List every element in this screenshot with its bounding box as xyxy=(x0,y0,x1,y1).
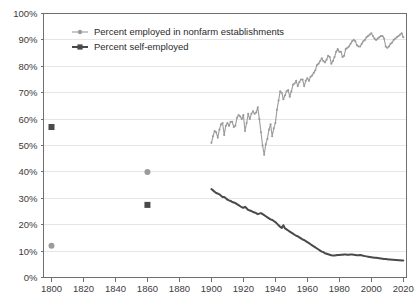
x-axis-tick-label: 1820 xyxy=(73,283,94,294)
data-point-marker xyxy=(297,85,299,87)
data-point-marker xyxy=(270,123,272,125)
data-point-marker xyxy=(242,114,244,116)
data-point-marker xyxy=(255,111,257,113)
y-axis-tick-label: 90% xyxy=(18,34,38,45)
data-point-marker xyxy=(266,138,268,140)
data-point-marker xyxy=(321,57,323,59)
x-axis: 1800182018401860188019001920194019601980… xyxy=(41,14,414,295)
data-point-marker xyxy=(249,118,251,120)
data-point-marker xyxy=(388,45,390,47)
data-point-marker xyxy=(218,129,220,131)
data-point-marker xyxy=(391,41,393,43)
data-point-marker xyxy=(278,100,280,102)
data-point-marker xyxy=(402,36,404,38)
x-axis-tick-label: 1940 xyxy=(265,283,286,294)
data-point-marker xyxy=(330,63,332,65)
data-point-marker xyxy=(329,56,331,58)
data-point-marker xyxy=(354,40,356,42)
data-point-marker xyxy=(314,69,316,71)
isolated-point-nonfarm-1800 xyxy=(48,243,54,249)
data-point-marker xyxy=(340,51,342,53)
y-axis: 0%10%20%30%40%50%60%70%80%90%100% xyxy=(13,8,43,283)
y-axis-tick-label: 70% xyxy=(18,87,38,98)
data-point-marker xyxy=(222,122,224,124)
data-point-marker xyxy=(226,122,228,124)
data-point-marker xyxy=(273,127,275,129)
data-point-marker xyxy=(319,60,321,62)
data-point-marker xyxy=(250,113,252,115)
data-point-marker xyxy=(274,122,276,124)
y-axis-tick-label: 40% xyxy=(18,166,38,177)
y-axis-tick-label: 60% xyxy=(18,114,38,125)
x-axis-tick-label: 1900 xyxy=(201,283,222,294)
x-axis-tick-label: 1800 xyxy=(41,283,62,294)
series-line-nonfarm xyxy=(211,33,403,154)
data-point-marker xyxy=(332,60,334,62)
data-point-marker xyxy=(343,55,345,57)
data-point-marker xyxy=(313,72,315,74)
legend-label-1: Percent self-employed xyxy=(94,41,189,52)
x-axis-tick-label: 2020 xyxy=(393,283,414,294)
data-point-marker xyxy=(252,110,254,112)
data-point-marker xyxy=(257,106,259,108)
data-point-marker xyxy=(281,92,283,94)
data-point-marker xyxy=(305,80,307,82)
data-point-marker xyxy=(265,143,267,145)
x-axis-tick-label: 1860 xyxy=(137,283,158,294)
data-point-marker xyxy=(333,56,335,58)
data-point-marker xyxy=(217,137,219,139)
data-point-marker xyxy=(241,118,243,120)
data-point-marker xyxy=(337,48,339,50)
data-point-marker xyxy=(348,45,350,47)
y-axis-tick-label: 100% xyxy=(13,8,38,19)
data-point-marker xyxy=(234,125,236,127)
x-axis-tick-label: 1960 xyxy=(297,283,318,294)
x-axis-tick-label: 1920 xyxy=(233,283,254,294)
chart-container: 0%10%20%30%40%50%60%70%80%90%100% 180018… xyxy=(0,0,419,306)
data-point-marker xyxy=(210,142,212,144)
data-point-marker xyxy=(372,35,374,37)
data-point-marker xyxy=(311,74,313,76)
y-axis-tick-label: 0% xyxy=(24,272,38,283)
data-point-marker xyxy=(302,78,304,80)
data-point-marker xyxy=(298,81,300,83)
data-point-marker xyxy=(306,77,308,79)
data-point-marker xyxy=(236,117,238,119)
data-point-marker xyxy=(231,121,233,123)
legend-marker-1 xyxy=(77,44,82,49)
x-axis-tick-label: 1840 xyxy=(105,283,126,294)
x-axis-tick-label: 1980 xyxy=(329,283,350,294)
data-point-marker xyxy=(246,122,248,124)
data-point-marker xyxy=(263,154,265,156)
data-point-marker xyxy=(308,80,310,82)
data-point-marker xyxy=(271,135,273,137)
data-point-marker xyxy=(215,131,217,133)
data-point-marker xyxy=(268,129,270,131)
data-point-marker xyxy=(401,32,403,34)
series-nonfarm xyxy=(210,32,404,156)
data-point-marker xyxy=(287,89,289,91)
data-point-marker xyxy=(325,59,327,61)
y-axis-tick-label: 10% xyxy=(18,246,38,257)
isolated-point-self_employed-1860 xyxy=(144,202,150,208)
data-point-marker xyxy=(289,96,291,98)
legend-label-0: Percent employed in nonfarm establishmen… xyxy=(94,26,284,37)
data-point-marker xyxy=(276,109,278,111)
isolated-point-self_employed-1800 xyxy=(48,124,54,130)
data-point-marker xyxy=(324,61,326,63)
line-chart: 0%10%20%30%40%50%60%70%80%90%100% 180018… xyxy=(0,0,419,306)
data-point-marker xyxy=(361,43,363,45)
data-point-marker xyxy=(247,113,249,115)
data-point-marker xyxy=(225,125,227,127)
data-point-marker xyxy=(244,130,246,132)
data-point-marker xyxy=(381,35,383,37)
data-point-marker xyxy=(383,38,385,40)
data-point-marker xyxy=(258,118,260,120)
data-point-marker xyxy=(228,125,230,127)
data-point-marker xyxy=(295,80,297,82)
data-point-marker xyxy=(294,82,296,84)
x-axis-tick-label: 2000 xyxy=(361,283,382,294)
y-axis-tick-label: 20% xyxy=(18,219,38,230)
data-point-marker xyxy=(239,115,241,117)
data-point-marker xyxy=(290,90,292,92)
